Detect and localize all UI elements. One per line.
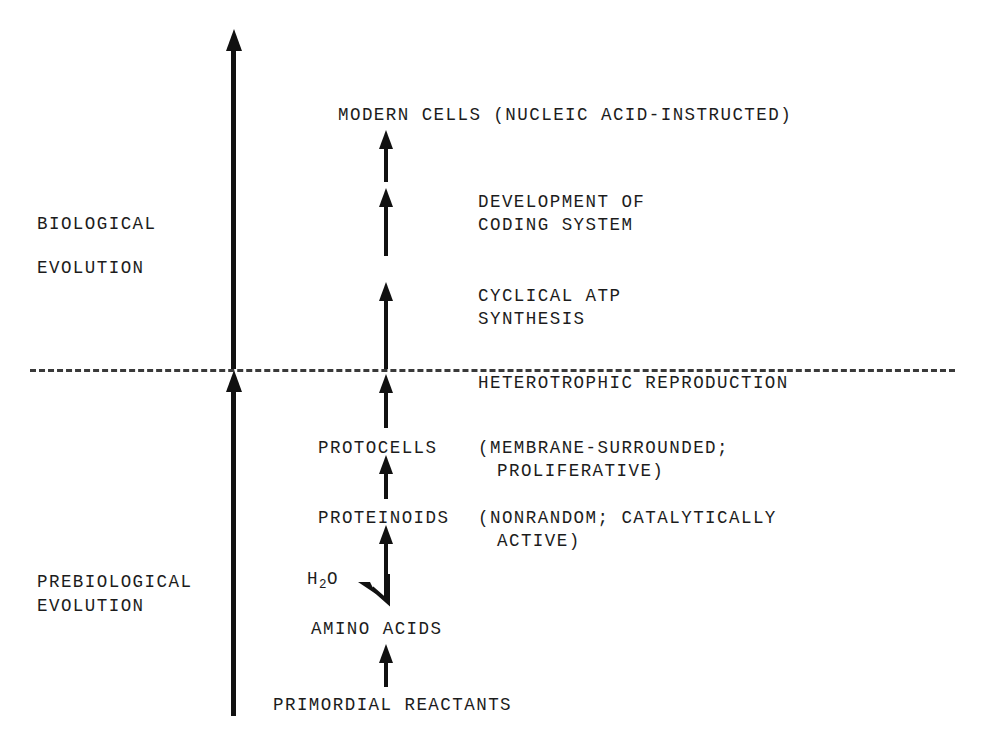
main-axis-upper-shaft [231, 49, 236, 369]
arrow-to-protocells-shaft [384, 473, 388, 499]
stage-proteinoids-note-line1: (NONRANDOM; CATALYTICALLY [478, 506, 777, 530]
main-axis-lower-shaft [231, 390, 236, 716]
stage-protocells-note-line1: (MEMBRANE-SURROUNDED; [478, 436, 729, 460]
arrow-to-modern-cells-head [379, 130, 393, 149]
arrow-to-coding-system-head [379, 188, 393, 207]
phase-label-biological-line1: BIOLOGICAL [37, 212, 157, 236]
evolution-pathway-figure: BIOLOGICAL EVOLUTION PREBIOLOGICAL EVOLU… [0, 0, 989, 741]
water-elimination-arrow [340, 572, 400, 612]
arrow-to-cyclical-atp-shaft [384, 300, 388, 369]
stage-modern-cells-label: MODERN CELLS (NUCLEIC ACID-INSTRUCTED) [338, 103, 792, 127]
main-axis-upper-arrowhead [226, 29, 242, 51]
arrow-to-modern-cells-shaft [384, 148, 388, 182]
stage-cyclical-atp-line1: CYCLICAL ATP [478, 284, 621, 308]
stage-proteinoids-note-line2: ACTIVE) [497, 529, 581, 553]
phase-label-prebiological-line2: EVOLUTION [37, 594, 145, 618]
water-formula-h: H [307, 569, 319, 589]
arrow-to-amino-acids-shaft [384, 662, 388, 687]
main-axis-lower-arrowhead [226, 370, 242, 392]
arrow-to-amino-acids-head [379, 644, 393, 663]
arrow-to-protocells-head [379, 455, 393, 474]
stage-primordial-reactants-label: PRIMORDIAL REACTANTS [273, 693, 512, 717]
water-formula-subscript: 2 [319, 578, 327, 592]
divider-label-heterotrophic-reproduction: HETEROTROPHIC REPRODUCTION [478, 371, 789, 395]
stage-cyclical-atp-line2: SYNTHESIS [478, 307, 586, 331]
stage-protocells-label: PROTOCELLS [318, 436, 438, 460]
stage-amino-acids-label: AMINO ACIDS [311, 617, 442, 641]
stage-coding-system-line1: DEVELOPMENT OF [478, 190, 645, 214]
water-formula-o: O [327, 569, 339, 589]
stage-coding-system-line2: CODING SYSTEM [478, 213, 633, 237]
arrow-to-proteinoids-head [379, 525, 393, 544]
arrow-to-cyclical-atp-head [379, 282, 393, 301]
water-arrow-path [372, 574, 388, 602]
arrow-to-heterotrophic-reproduction-shaft [384, 392, 388, 428]
stage-protocells-note-line2: PROLIFERATIVE) [497, 459, 664, 483]
byproduct-water-label: H2O [307, 567, 339, 597]
phase-label-prebiological-line1: PREBIOLOGICAL [37, 570, 192, 594]
phase-label-biological-line2: EVOLUTION [37, 256, 145, 280]
arrow-to-heterotrophic-reproduction-head [379, 374, 393, 393]
arrow-to-coding-system-shaft [384, 206, 388, 256]
